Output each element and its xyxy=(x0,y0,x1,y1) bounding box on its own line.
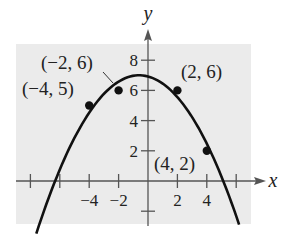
x-axis-label: x xyxy=(268,169,278,191)
y-tick-label: 6 xyxy=(130,81,139,100)
point-label: (4, 2) xyxy=(154,153,195,175)
point-label: (−2, 6) xyxy=(41,52,93,74)
point-label: (−4, 5) xyxy=(22,78,74,100)
y-tick-label: 4 xyxy=(130,112,139,131)
x-tick-label: 2 xyxy=(173,191,182,210)
chart: −4−2242468xy(−4, 5)(−2, 6)(2, 6)(4, 2) xyxy=(0,0,283,246)
x-tick-label: 4 xyxy=(203,191,212,210)
x-tick-label: −2 xyxy=(110,191,128,210)
y-tick-label: 8 xyxy=(130,51,139,70)
data-point xyxy=(114,86,122,94)
data-point xyxy=(203,147,211,155)
point-label: (2, 6) xyxy=(181,61,222,83)
data-point xyxy=(173,86,181,94)
data-point xyxy=(85,101,93,109)
x-tick-label: −4 xyxy=(80,191,99,210)
y-tick-label: 2 xyxy=(130,142,139,161)
y-axis-label: y xyxy=(142,2,153,25)
